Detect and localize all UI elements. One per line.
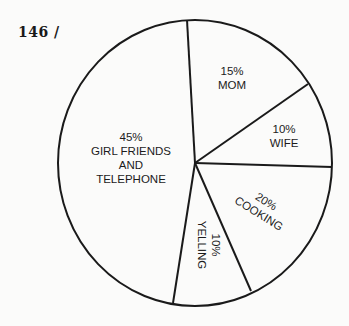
- slice-label-wife: 10% WIFE: [270, 123, 299, 149]
- svg-text:45%: 45%: [119, 131, 142, 143]
- slice-label-yelling: 10% YELLING: [196, 221, 222, 270]
- slice-label-girlfriends: 45% GIRL FRIENDS AND TELEPHONE: [91, 131, 171, 185]
- divider-girlfriends-mom: [187, 20, 195, 163]
- svg-text:MOM: MOM: [218, 79, 246, 91]
- pie-chart: 15% MOM 10% WIFE 20% COOKING 10% YELLING…: [0, 0, 349, 326]
- svg-text:10%: 10%: [272, 123, 295, 135]
- svg-text:GIRL FRIENDS: GIRL FRIENDS: [91, 145, 171, 157]
- slice-label-cooking: 20% COOKING: [233, 182, 293, 233]
- svg-text:WIFE: WIFE: [270, 137, 299, 149]
- svg-text:TELEPHONE: TELEPHONE: [96, 173, 166, 185]
- divider-wife-cooking: [195, 163, 332, 167]
- svg-text:YELLING: YELLING: [196, 221, 208, 270]
- divider-yelling-girlfriends: [173, 163, 195, 303]
- slice-label-mom: 15% MOM: [218, 65, 246, 91]
- svg-text:10%: 10%: [210, 233, 222, 256]
- svg-text:AND: AND: [119, 159, 143, 171]
- svg-text:15%: 15%: [220, 65, 243, 77]
